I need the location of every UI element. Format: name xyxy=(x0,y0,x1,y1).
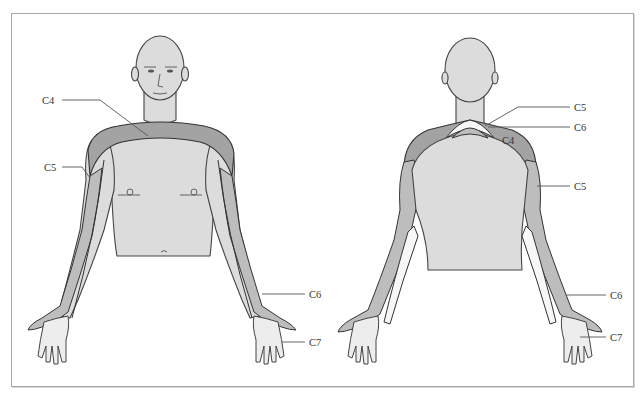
posterior-label-c6: C6 xyxy=(610,290,622,301)
anterior-figure xyxy=(28,36,296,364)
posterior-label-c5-top: C5 xyxy=(574,102,586,113)
posterior-left-ear xyxy=(442,72,448,84)
anterior-torso xyxy=(108,128,214,256)
posterior-label-c7: C7 xyxy=(610,332,622,343)
anterior-label-c4: C4 xyxy=(42,95,55,106)
posterior-head xyxy=(445,38,495,102)
dermatome-diagram: C4 C5 C6 C7 C5 C xyxy=(0,0,643,393)
posterior-c5-top-leader xyxy=(485,107,570,126)
posterior-back xyxy=(412,132,528,270)
posterior-label-c6-top: C6 xyxy=(574,122,586,133)
posterior-right-ear xyxy=(492,72,498,84)
anterior-right-ear xyxy=(182,67,189,81)
posterior-label-c4: C4 xyxy=(502,135,515,146)
anterior-head xyxy=(136,36,184,100)
anterior-label-c6: C6 xyxy=(309,289,321,300)
anterior-left-ear xyxy=(132,67,139,81)
anterior-label-c5: C5 xyxy=(44,162,56,173)
posterior-figure xyxy=(338,38,602,364)
posterior-label-c5-arm: C5 xyxy=(574,181,586,192)
anterior-label-c7: C7 xyxy=(309,337,321,348)
